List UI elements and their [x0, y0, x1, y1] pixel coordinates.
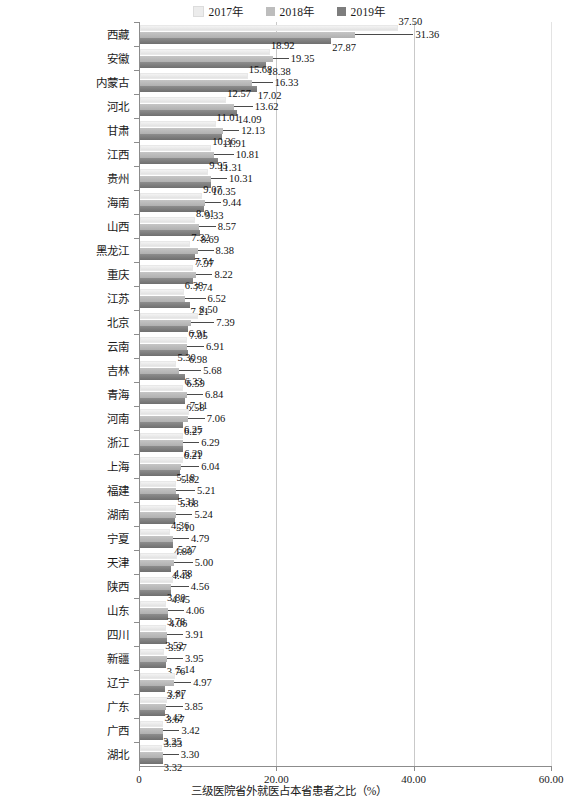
bar-辽宁-2017年[interactable] — [140, 673, 175, 679]
bar-宁夏-2019年[interactable] — [140, 542, 173, 548]
bar-山东-2017年[interactable] — [140, 601, 166, 607]
bar-广西-2018年[interactable] — [140, 728, 163, 734]
bar-天津-2017年[interactable] — [140, 553, 177, 559]
bar-福建-2019年[interactable] — [140, 494, 179, 500]
bar-福建-2018年[interactable] — [140, 488, 176, 494]
bar-新疆-2018年[interactable] — [140, 656, 167, 662]
bar-湖南-2019年[interactable] — [140, 518, 175, 524]
bar-江苏-2019年[interactable] — [140, 302, 190, 308]
bar-广西-2019年[interactable] — [140, 734, 163, 740]
data-label-西藏-2017: 37.50 — [399, 16, 423, 27]
bar-云南-2018年[interactable] — [140, 344, 187, 350]
bar-湖北-2017年[interactable] — [140, 745, 162, 751]
bar-湖南-2018年[interactable] — [140, 512, 176, 518]
bar-黑龙江-2017年[interactable] — [140, 241, 190, 247]
bar-河南-2018年[interactable] — [140, 416, 188, 422]
bar-北京-2019年[interactable] — [140, 326, 188, 332]
legend-item-2018年[interactable]: 2018年 — [266, 3, 315, 19]
bar-吉林-2019年[interactable] — [140, 374, 185, 380]
category-tick — [134, 166, 139, 167]
bar-河北-2018年[interactable] — [140, 104, 234, 110]
bar-甘肃-2017年[interactable] — [140, 121, 216, 127]
data-label-内蒙古-2018: 16.33 — [275, 77, 299, 88]
bar-湖南-2017年[interactable] — [140, 505, 176, 511]
bar-内蒙古-2018年[interactable] — [140, 80, 252, 86]
bar-浙江-2017年[interactable] — [140, 433, 183, 439]
legend-item-2019年[interactable]: 2019年 — [337, 3, 386, 19]
bar-吉林-2018年[interactable] — [140, 368, 179, 374]
bar-广东-2019年[interactable] — [140, 710, 165, 716]
bar-甘肃-2018年[interactable] — [140, 128, 223, 134]
bar-西藏-2018年[interactable] — [140, 32, 355, 38]
bar-辽宁-2019年[interactable] — [140, 686, 165, 692]
bar-广东-2018年[interactable] — [140, 704, 166, 710]
bar-陕西-2019年[interactable] — [140, 590, 171, 596]
bar-天津-2019年[interactable] — [140, 566, 171, 572]
bar-海南-2017年[interactable] — [140, 193, 202, 199]
bar-黑龙江-2018年[interactable] — [140, 248, 198, 254]
bar-四川-2017年[interactable] — [140, 625, 166, 631]
bar-重庆-2017年[interactable] — [140, 265, 193, 271]
legend-swatch-icon — [193, 6, 204, 17]
bar-湖北-2019年[interactable] — [140, 758, 163, 764]
bar-甘肃-2019年[interactable] — [140, 134, 222, 140]
bar-四川-2019年[interactable] — [140, 638, 167, 644]
bar-天津-2018年[interactable] — [140, 560, 174, 566]
bar-江西-2017年[interactable] — [140, 145, 211, 151]
bar-福建-2017年[interactable] — [140, 481, 176, 487]
bar-安徽-2019年[interactable] — [140, 62, 266, 68]
bar-青海-2018年[interactable] — [140, 392, 187, 398]
bar-安徽-2017年[interactable] — [140, 49, 270, 55]
bar-西藏-2019年[interactable] — [140, 38, 331, 44]
bar-贵州-2018年[interactable] — [140, 176, 211, 182]
bar-江西-2018年[interactable] — [140, 152, 214, 158]
bar-四川-2018年[interactable] — [140, 632, 167, 638]
bar-北京-2018年[interactable] — [140, 320, 191, 326]
bar-新疆-2019年[interactable] — [140, 662, 166, 668]
leader-line-黑龙江 — [198, 250, 214, 251]
bar-贵州-2019年[interactable] — [140, 182, 211, 188]
bar-内蒙古-2017年[interactable] — [140, 73, 248, 79]
bar-贵州-2017年[interactable] — [140, 169, 208, 175]
data-label-湖北-2017: 3.25 — [163, 736, 181, 747]
bar-海南-2018年[interactable] — [140, 200, 205, 206]
bar-宁夏-2017年[interactable] — [140, 529, 170, 535]
bar-上海-2017年[interactable] — [140, 457, 183, 463]
bar-河南-2017年[interactable] — [140, 409, 189, 415]
bar-浙江-2018年[interactable] — [140, 440, 183, 446]
bar-西藏-2017年[interactable] — [140, 25, 398, 31]
bar-上海-2019年[interactable] — [140, 470, 180, 476]
legend-item-2017年[interactable]: 2017年 — [193, 3, 244, 19]
bar-云南-2017年[interactable] — [140, 337, 187, 343]
bar-宁夏-2018年[interactable] — [140, 536, 173, 542]
bar-江苏-2018年[interactable] — [140, 296, 185, 302]
category-label-浙江: 浙江 — [0, 434, 129, 450]
x-tick-mark — [551, 766, 552, 771]
bar-山西-2017年[interactable] — [140, 217, 195, 223]
bar-青海-2017年[interactable] — [140, 385, 183, 391]
bar-海南-2019年[interactable] — [140, 206, 204, 212]
bar-河北-2017年[interactable] — [140, 97, 226, 103]
bar-重庆-2018年[interactable] — [140, 272, 196, 278]
bar-北京-2017年[interactable] — [140, 313, 198, 319]
bar-上海-2018年[interactable] — [140, 464, 181, 470]
bar-山东-2019年[interactable] — [140, 614, 168, 620]
bar-青海-2019年[interactable] — [140, 398, 185, 404]
bar-陕西-2018年[interactable] — [140, 584, 171, 590]
bar-江苏-2017年[interactable] — [140, 289, 184, 295]
bar-山西-2018年[interactable] — [140, 224, 199, 230]
bar-吉林-2017年[interactable] — [140, 361, 176, 367]
bar-山东-2018年[interactable] — [140, 608, 168, 614]
bar-江西-2019年[interactable] — [140, 158, 218, 164]
bar-浙江-2019年[interactable] — [140, 446, 183, 452]
bar-河南-2019年[interactable] — [140, 422, 183, 428]
bar-广西-2017年[interactable] — [140, 721, 163, 727]
bar-陕西-2017年[interactable] — [140, 577, 173, 583]
leader-line-重庆 — [196, 274, 212, 275]
bar-新疆-2017年[interactable] — [140, 649, 164, 655]
bar-黑龙江-2019年[interactable] — [140, 254, 195, 260]
bar-辽宁-2018年[interactable] — [140, 680, 174, 686]
bar-湖北-2018年[interactable] — [140, 752, 163, 758]
bar-广东-2017年[interactable] — [140, 697, 167, 703]
bar-安徽-2018年[interactable] — [140, 56, 273, 62]
